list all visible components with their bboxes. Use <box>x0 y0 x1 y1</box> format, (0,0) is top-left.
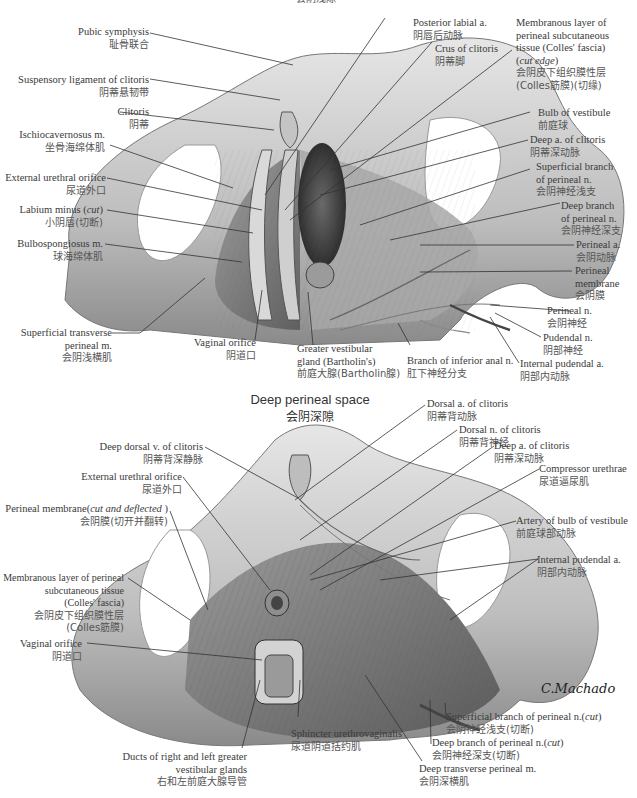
label-en-italic: cut <box>87 204 100 215</box>
label-bulb-of-vestibule: Bulb of vestibule 前庭球 <box>538 107 610 132</box>
label-zh: 会阴膜 <box>575 290 619 303</box>
label-en: Deep a. of clitoris <box>530 134 605 147</box>
label-zh: 阴蒂深动脉 <box>530 147 605 160</box>
label-deep-branch-perineal-n: Deep branch of perineal n. 会阴神经深支 <box>561 200 621 238</box>
label-bulbospongiosus: Bulbospongiosus m. 球海绵体肌 <box>17 238 103 263</box>
label-en: tissue (Colles' fascia) <box>516 42 609 55</box>
label-zh: 阴部内动脉 <box>520 371 604 384</box>
label-en: Sphincter urethrovaginalis <box>291 728 402 741</box>
label-zh: 会阴动脉 <box>576 252 620 265</box>
label-ducts-greater-vestibular-glands: Ducts of right and left greater vestibul… <box>123 751 248 789</box>
label-en: Internal pudendal a. <box>520 358 604 371</box>
label-en: Superficial branch <box>536 161 613 174</box>
label-zh: 会阴神经深支 <box>561 225 621 238</box>
label-en-end: ) <box>598 711 602 722</box>
label-en: Dorsal a. of clitoris <box>427 398 508 411</box>
label-en: Clitoris <box>117 106 149 119</box>
label-zh: 阴蒂背动脉 <box>427 411 508 424</box>
label-external-urethral-orifice: External urethral orifice 尿道外口 <box>5 172 106 197</box>
label-en-italic: cut <box>547 737 560 748</box>
label-en: Posterior labial a. <box>413 17 487 30</box>
label-en: Membranous layer of <box>516 17 609 30</box>
label-en: Perineal membrane( <box>5 503 90 514</box>
label-en: Deep transverse perineal m. <box>419 763 536 776</box>
label-en: Superficial transverse <box>21 327 112 340</box>
label-branch-inferior-anal: Branch of inferior anal n. 肛下神经分支 <box>407 355 513 380</box>
label-zh: 阴蒂悬韧带 <box>18 87 149 100</box>
label-perineal-membrane-cut: Perineal membrane(cut and deflected ) 会阴… <box>5 503 168 528</box>
label-deep-dorsal-v: Deep dorsal v. of clitoris 阴蒂背深静脉 <box>100 441 203 466</box>
label-zh: 小阴唇(切断) <box>20 217 103 230</box>
label-en: Dorsal n. of clitoris <box>459 424 541 437</box>
label-deep-a-of-clitoris-deep: Deep a. of clitoris 阴蒂深动脉 <box>494 440 569 465</box>
label-zh: 阴道口 <box>20 651 82 664</box>
label-vaginal-orifice-deep: Vaginal orifice 阴道口 <box>20 638 82 663</box>
label-zh: 阴唇后动脉 <box>413 30 487 43</box>
label-en-end: ) <box>100 204 104 215</box>
label-ischiocavernosus: Ischiocavernosus m. 坐骨海绵体肌 <box>19 129 105 154</box>
label-superficial-branch-perineal-n: Superficial branch of perineal n. 会阴神经浅支 <box>536 161 613 199</box>
label-en: Pubic symphysis <box>78 26 149 39</box>
label-en: External urethral orifice <box>5 172 106 185</box>
label-zh: 会阴神经深支(切断) <box>432 750 563 763</box>
label-en: Internal pudendal a. <box>537 554 621 567</box>
label-en: Vaginal orifice <box>20 638 82 651</box>
label-zh: 尿道外口 <box>5 185 106 198</box>
label-zh: (Colles筋膜) <box>3 622 124 635</box>
label-suspensory-ligament: Suspensory ligament of clitoris 阴蒂悬韧带 <box>18 74 149 99</box>
label-en: membrane <box>575 278 619 291</box>
label-zh: 会阴神经浅支 <box>536 186 613 199</box>
label-en-end: ) <box>560 737 564 748</box>
section-title-zh: 会阴浅隙 <box>296 0 336 6</box>
label-en: (Colles' fascia) <box>3 597 124 610</box>
label-en: Deep a. of clitoris <box>494 440 569 453</box>
label-colles-fascia-bottom: Membranous layer of perineal subcutaneou… <box>3 572 124 635</box>
label-colles-fascia-top: Membranous layer of perineal subcutaneou… <box>516 17 609 92</box>
label-en: Pudendal n. <box>543 332 593 345</box>
label-pudendal-n: Pudendal n. 阴部神经 <box>543 332 593 357</box>
label-zh: 会阴皮下组织膜性层 <box>3 610 124 623</box>
label-en: Membranous layer of perineal <box>3 572 124 585</box>
label-dorsal-a-of-clitoris: Dorsal a. of clitoris 阴蒂背动脉 <box>427 398 508 423</box>
label-en: Greater vestibular <box>297 343 400 356</box>
label-greater-vestibular-gland: Greater vestibular gland (Bartholin's) 前… <box>297 343 400 381</box>
label-en: Ischiocavernosus m. <box>19 129 105 142</box>
label-en: Deep dorsal v. of clitoris <box>100 441 203 454</box>
label-en: Superficial branch of perineal n.( <box>446 711 585 722</box>
label-en: Ducts of right and left greater <box>123 751 248 764</box>
section-title-deep-perineal-space: Deep perineal space 会阴深隙 <box>230 392 390 424</box>
section-title-en: Deep perineal space <box>230 392 390 407</box>
label-en: subcutaneous tissue <box>3 585 124 598</box>
label-en: Deep branch <box>561 200 621 213</box>
label-artery-of-bulb-of-vestibule: Artery of bulb of vestibule 前庭球部动脉 <box>516 515 628 540</box>
label-crus-of-clitoris: Crus of clitoris 阴蒂脚 <box>435 43 498 68</box>
label-zh: 尿道逼尿肌 <box>539 476 627 489</box>
label-en: of perineal n. <box>561 213 621 226</box>
label-zh: 阴部内动脉 <box>537 567 621 580</box>
label-internal-pudendal-a-top: Internal pudendal a. 阴部内动脉 <box>520 358 604 383</box>
label-en-italic: cut and deflected <box>90 503 162 514</box>
label-en: Artery of bulb of vestibule <box>516 515 628 528</box>
label-en: perineal m. <box>21 340 112 353</box>
label-vaginal-orifice: Vaginal orifice 阴道口 <box>194 337 256 362</box>
label-en: Crus of clitoris <box>435 43 498 56</box>
label-zh: 前庭球 <box>538 120 610 133</box>
label-zh: 肛下神经分支 <box>407 368 513 381</box>
label-posterior-labial-a: Posterior labial a. 阴唇后动脉 <box>413 17 487 42</box>
label-en-italic: cut <box>585 711 598 722</box>
label-labium-minus: Labium minus (cut) 小阴唇(切断) <box>20 204 103 229</box>
label-en: Deep branch of perineal n.( <box>432 737 547 748</box>
label-internal-pudendal-a-deep: Internal pudendal a. 阴部内动脉 <box>537 554 621 579</box>
label-zh: 尿道阴道括约肌 <box>291 741 402 754</box>
label-sphincter-urethrovaginalis: Sphincter urethrovaginalis 尿道阴道括约肌 <box>291 728 402 753</box>
label-zh: 阴蒂背深静脉 <box>100 454 203 467</box>
label-zh: 会阴浅横肌 <box>21 352 112 365</box>
label-en: vestibular glands <box>123 764 248 777</box>
label-en: Bulb of vestibule <box>538 107 610 120</box>
label-zh: 会阴深横肌 <box>419 776 536 789</box>
label-en: gland (Bartholin's) <box>297 356 400 369</box>
label-perineal-a: Perineal a. 会阴动脉 <box>576 239 620 264</box>
label-en: perineal subcutaneous <box>516 30 609 43</box>
label-deep-branch-perineal-cut: Deep branch of perineal n.(cut) 会阴神经深支(切… <box>432 737 563 762</box>
label-zh: 前庭大腺(Bartholin腺) <box>297 368 400 381</box>
